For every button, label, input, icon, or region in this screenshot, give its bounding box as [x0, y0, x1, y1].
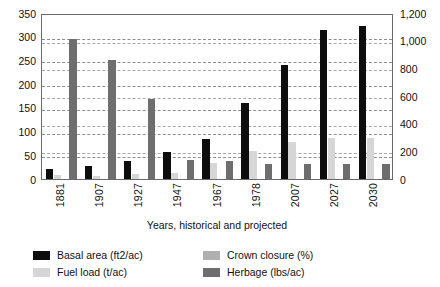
bar — [210, 163, 217, 179]
category-axis: 188119071927194719671978200720272030 — [41, 181, 393, 217]
left-axis-tick-label: 250 — [18, 56, 36, 66]
left-axis-tick-label: 150 — [18, 103, 36, 113]
category-label: 1967 — [212, 183, 223, 207]
left-axis-tick-label: 300 — [18, 32, 36, 42]
bar — [202, 139, 209, 179]
legend-label: Basal area (ft2/ac) — [57, 250, 143, 261]
category-label: 1947 — [172, 183, 183, 207]
bar — [343, 164, 350, 179]
legend-label: Herbage (lbs/ac) — [227, 267, 305, 278]
legend-swatch — [33, 251, 50, 260]
bar-group — [320, 15, 351, 179]
bar — [163, 152, 170, 180]
bar-group — [124, 15, 155, 179]
bar — [148, 99, 155, 179]
category-label: 1927 — [133, 183, 144, 207]
legend-item: Herbage (lbs/ac) — [203, 266, 305, 279]
legend-swatch — [203, 251, 220, 260]
right-axis-tick-label: 800 — [400, 64, 418, 74]
bar-group — [85, 15, 116, 179]
right-axis-tick-label: 0 — [400, 175, 406, 185]
bar — [171, 173, 178, 179]
bar-group — [359, 15, 390, 179]
bar-group — [202, 15, 233, 179]
bar — [304, 164, 311, 179]
legend-item: Crown closure (%) — [203, 249, 313, 262]
bar-group — [281, 15, 312, 179]
right-axis-tick-label: 1,200 — [400, 9, 426, 19]
bar — [187, 160, 194, 179]
category-label: 1978 — [251, 183, 262, 207]
left-value-axis: 050100150200250300350 — [0, 14, 40, 180]
left-axis-tick-label: 350 — [18, 9, 36, 19]
bar — [226, 161, 233, 179]
left-axis-tick-label: 100 — [18, 127, 36, 137]
bar — [132, 174, 139, 179]
right-axis-tick-label: 1,000 — [400, 36, 426, 46]
legend-label: Crown closure (%) — [227, 250, 313, 261]
legend-swatch — [203, 268, 220, 277]
bar — [93, 176, 100, 179]
bar — [328, 138, 335, 179]
category-label: 2007 — [290, 183, 301, 207]
plot-area — [41, 14, 393, 180]
category-label: 2030 — [368, 183, 379, 207]
legend-item: Basal area (ft2/ac) — [33, 249, 143, 262]
right-axis-tick-label: 600 — [400, 92, 418, 102]
category-label: 2027 — [329, 183, 340, 207]
bar — [46, 169, 53, 179]
bar — [382, 164, 389, 179]
bars-layer — [42, 15, 392, 179]
category-label: 1907 — [94, 183, 105, 207]
right-value-axis: 02004006008001,0001,200 — [394, 14, 440, 180]
bar — [265, 164, 272, 179]
bar — [367, 138, 374, 179]
legend-item: Fuel load (t/ac) — [33, 266, 127, 279]
bar — [249, 151, 256, 179]
bar-group — [46, 15, 77, 179]
left-axis-tick-label: 200 — [18, 80, 36, 90]
category-label: 1881 — [55, 183, 66, 207]
bar — [288, 142, 295, 179]
right-axis-tick-label: 200 — [400, 147, 418, 157]
bar — [69, 39, 76, 179]
left-axis-tick-label: 0 — [30, 175, 36, 185]
bar — [281, 65, 288, 179]
bar — [320, 30, 327, 179]
chart-legend: Basal area (ft2/ac)Crown closure (%)Fuel… — [33, 249, 363, 281]
bar — [124, 161, 131, 179]
bar — [359, 26, 366, 179]
bar — [54, 175, 61, 179]
x-axis-title: Years, historical and projected — [41, 219, 393, 231]
bar-group — [241, 15, 272, 179]
bar — [108, 60, 115, 179]
legend-label: Fuel load (t/ac) — [57, 267, 127, 278]
bar-group — [163, 15, 194, 179]
left-axis-tick-label: 50 — [24, 151, 36, 161]
bar — [241, 103, 248, 179]
right-axis-tick-label: 400 — [400, 119, 418, 129]
bar — [85, 166, 92, 179]
legend-swatch — [33, 268, 50, 277]
bar-chart: 050100150200250300350 02004006008001,000… — [0, 0, 440, 287]
